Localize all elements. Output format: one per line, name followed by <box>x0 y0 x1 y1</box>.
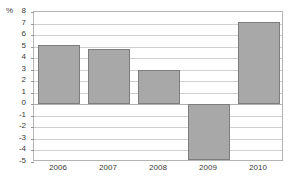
y-tickmark <box>31 162 34 163</box>
y-axis: 876543210-1-2-3-4-5 <box>0 11 30 161</box>
y-tick-label: 4 <box>22 53 26 61</box>
y-tick-label: 5 <box>22 42 26 50</box>
plot-area <box>33 11 283 161</box>
bar-chart: % 876543210-1-2-3-4-5 200620072008200920… <box>0 0 293 189</box>
y-tick-label: 6 <box>22 30 26 38</box>
bar[interactable] <box>38 45 81 104</box>
y-tick-label: 2 <box>22 76 26 84</box>
y-tick-label: 1 <box>22 88 26 96</box>
y-tick-label: 8 <box>22 7 26 15</box>
y-tick-label: -4 <box>19 145 26 153</box>
y-tick-label: -2 <box>19 122 26 130</box>
bars-layer <box>34 12 282 160</box>
bar-slot <box>84 12 134 160</box>
bar-slot <box>134 12 184 160</box>
x-tick-label: 2009 <box>199 164 217 172</box>
y-tick-label: 7 <box>22 19 26 27</box>
bar-slot <box>34 12 84 160</box>
y-tick-label: 0 <box>22 99 26 107</box>
bar[interactable] <box>188 104 231 159</box>
y-tick-label: -5 <box>19 157 26 165</box>
x-tick-label: 2007 <box>99 164 117 172</box>
bar[interactable] <box>138 70 181 104</box>
bar-slot <box>234 12 284 160</box>
x-axis: 20062007200820092010 <box>33 164 283 178</box>
y-tick-label: 3 <box>22 65 26 73</box>
y-tick-label: -3 <box>19 134 26 142</box>
x-tick-label: 2008 <box>149 164 167 172</box>
bar[interactable] <box>238 22 281 105</box>
bar[interactable] <box>88 49 131 104</box>
bar-slot <box>184 12 234 160</box>
x-tick-label: 2006 <box>49 164 67 172</box>
y-tick-label: -1 <box>19 111 26 119</box>
x-tick-label: 2010 <box>249 164 267 172</box>
